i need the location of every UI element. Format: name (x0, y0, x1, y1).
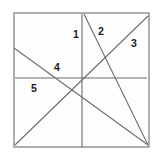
line-diagram: 1 2 3 4 5 (0, 0, 163, 161)
line-label-3: 3 (131, 37, 137, 49)
line-label-4: 4 (54, 61, 60, 73)
figure-container: 1 2 3 4 5 (0, 0, 163, 161)
line-label-2: 2 (98, 25, 104, 37)
line-label-5: 5 (31, 82, 37, 94)
line-label-1: 1 (73, 28, 79, 40)
